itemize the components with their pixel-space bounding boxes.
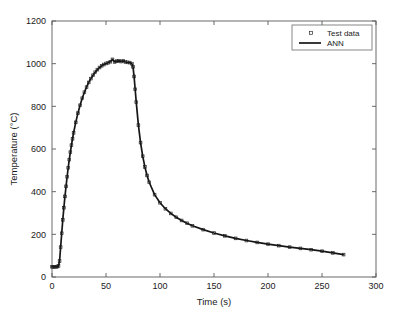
x-tick-label: 150	[206, 281, 221, 291]
y-tick-label: 400	[31, 187, 46, 197]
legend-label-ann: ANN	[327, 39, 344, 48]
y-tick-label: 1000	[26, 59, 46, 69]
x-tick-label: 0	[49, 281, 54, 291]
x-axis-label: Time (s)	[197, 296, 231, 307]
y-tick-label: 800	[31, 102, 46, 112]
thermal-cycle-chart: 050100150200250300 020040060080010001200…	[0, 0, 398, 318]
x-tick-label: 200	[260, 281, 275, 291]
x-tick-label: 250	[314, 281, 329, 291]
y-tick-label: 1200	[26, 16, 46, 26]
x-tick-label: 300	[368, 281, 383, 291]
x-tick-label: 50	[101, 281, 111, 291]
x-tick-label: 100	[152, 281, 167, 291]
y-tick-label: 200	[31, 230, 46, 240]
y-axis-label: Temperature (°C)	[8, 113, 19, 186]
y-tick-label: 0	[41, 272, 46, 282]
chart-legend: Test data ANN	[292, 25, 372, 50]
y-tick-label: 600	[31, 144, 46, 154]
legend-label-test-data: Test data	[327, 29, 360, 38]
